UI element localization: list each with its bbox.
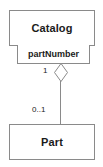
class-name-part: Part [41, 137, 63, 148]
association-connector-line [60, 81, 61, 124]
class-box-catalog[interactable]: Catalog [9, 10, 95, 46]
class-box-part[interactable]: Part [9, 124, 95, 160]
class-name-catalog: Catalog [31, 23, 72, 34]
multiplicity-target: 0..1 [32, 106, 45, 114]
qualifier-box-partnumber[interactable]: partNumber [17, 45, 90, 64]
multiplicity-source: 1 [43, 67, 47, 75]
uml-class-diagram: Catalog partNumber 1 0..1 Part [0, 0, 103, 167]
qualifier-label: partNumber [28, 50, 79, 59]
aggregation-diamond-icon [54, 63, 68, 82]
